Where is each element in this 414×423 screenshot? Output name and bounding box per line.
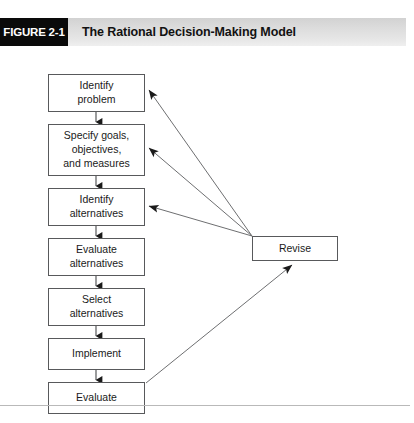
flowchart-diagram: Identify problem Specify goals, objectiv… (0, 46, 414, 401)
node-evaluate[interactable]: Evaluate (48, 382, 145, 414)
arrow-evaluate-to-revise (146, 265, 292, 383)
node-label-select-alternatives: Select alternatives (66, 293, 128, 321)
arrow-revise-to-specify-goals (149, 148, 252, 236)
node-evaluate-alternatives[interactable]: Evaluate alternatives (48, 238, 145, 276)
figure-title: The Rational Decision-Making Model (82, 25, 296, 39)
node-label-revise: Revise (275, 242, 315, 256)
figure-title-bar: The Rational Decision-Making Model (68, 18, 406, 46)
figure-header: FIGURE 2-1 The Rational Decision-Making … (0, 18, 406, 46)
figure-number-tab: FIGURE 2-1 (0, 18, 68, 46)
node-label-specify-goals: Specify goals, objectives, and measures (59, 129, 134, 171)
node-identify-problem[interactable]: Identify problem (48, 74, 145, 112)
node-identify-alternatives[interactable]: Identify alternatives (48, 188, 145, 226)
arrow-revise-to-identify-alternatives (149, 206, 252, 236)
figure-root: FIGURE 2-1 The Rational Decision-Making … (0, 0, 414, 423)
arrow-revise-to-identify-problem (149, 90, 252, 236)
node-label-implement: Implement (68, 347, 125, 361)
node-label-identify-alternatives: Identify alternatives (66, 193, 128, 221)
node-revise[interactable]: Revise (252, 236, 338, 261)
node-label-identify-problem: Identify problem (74, 79, 120, 107)
node-label-evaluate: Evaluate (72, 391, 121, 405)
node-label-evaluate-alternatives: Evaluate alternatives (66, 243, 128, 271)
node-specify-goals[interactable]: Specify goals, objectives, and measures (48, 124, 145, 176)
node-select-alternatives[interactable]: Select alternatives (48, 288, 145, 326)
footer-divider (0, 405, 410, 406)
figure-number-label: FIGURE 2-1 (3, 26, 64, 38)
node-implement[interactable]: Implement (48, 338, 145, 370)
